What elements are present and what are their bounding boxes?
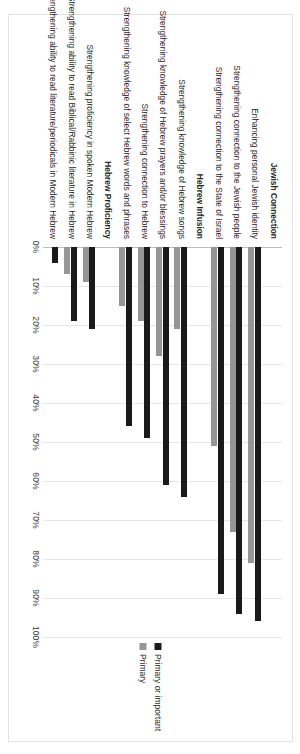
category-label: Strengthening connection to the Jewish p…	[232, 65, 241, 239]
category-axis-labels: Jewish ConnectionEnhancing personal Jewi…	[43, 29, 282, 243]
category-label: Strengthening connection to the State of…	[213, 67, 222, 239]
legend-swatch-icon	[155, 643, 162, 650]
category-label: Strengthening proficiency in spoken Mode…	[84, 44, 93, 239]
category-label: Strengthening ability to read literature…	[48, 0, 57, 239]
legend-label: Primary or important	[153, 654, 163, 731]
bar-primary-or-important	[89, 247, 95, 329]
category-label: Strengthening knowledge of select Hebrew…	[121, 7, 130, 239]
bar-primary	[175, 247, 181, 329]
plot-inner	[43, 247, 282, 637]
bar-primary-or-important	[52, 247, 58, 263]
axis-tick-label: 90%	[31, 589, 41, 606]
bar-rows	[43, 247, 282, 637]
category-label: Enhancing personal Jewish identity	[250, 108, 259, 239]
axis-tick-label: 80%	[31, 550, 41, 567]
category-group-header: Jewish Connection	[268, 163, 277, 239]
axis-tick-label: 20%	[31, 316, 41, 333]
legend-swatch-icon	[140, 643, 147, 650]
axis-tick-label: 40%	[31, 394, 41, 411]
plot-area: 0%10%20%30%40%50%60%70%80%90%100%	[43, 247, 282, 637]
axis-tick-label: 0%	[31, 241, 41, 254]
bar-primary-or-important	[144, 247, 150, 438]
category-label: Strengthening knowledge of Hebrew songs	[176, 79, 185, 239]
category-label: Strengthening ability to read Biblical/R…	[66, 0, 75, 239]
chart-frame: Jewish ConnectionEnhancing personal Jewi…	[8, 14, 293, 742]
legend-item[interactable]: Primary	[138, 643, 148, 683]
bar-primary	[156, 247, 162, 356]
chart-viewport: Jewish ConnectionEnhancing personal Jewi…	[0, 0, 300, 754]
bar-primary-or-important	[255, 247, 261, 621]
value-axis: 0%10%20%30%40%50%60%70%80%90%100%	[13, 247, 43, 637]
bar-primary-or-important	[236, 247, 242, 614]
legend-label: Primary	[138, 654, 148, 683]
category-label: Strengthening connection to Hebrew	[140, 104, 149, 240]
bar-primary	[119, 247, 125, 306]
category-group-header: Hebrew Infusion	[195, 174, 204, 239]
axis-tick-label: 30%	[31, 355, 41, 372]
axis-tick-label: 10%	[31, 277, 41, 294]
chart-stage: Jewish ConnectionEnhancing personal Jewi…	[0, 0, 300, 754]
category-group-header: Hebrew Proficiency	[103, 161, 112, 239]
axis-tick-label: 100%	[31, 626, 41, 648]
axis-tick-label: 70%	[31, 511, 41, 528]
bar-primary	[83, 247, 89, 282]
axis-tick-label: 60%	[31, 472, 41, 489]
bar-primary	[230, 247, 236, 532]
bar-primary	[138, 247, 144, 321]
bar-primary	[64, 247, 70, 274]
gridline	[43, 637, 282, 638]
bar-primary-or-important	[181, 247, 187, 497]
chart-legend: Primary or importantPrimary	[138, 643, 163, 731]
bar-primary	[248, 247, 254, 563]
bar-primary-or-important	[163, 247, 169, 485]
bar-primary-or-important	[218, 247, 224, 594]
bar-primary-or-important	[126, 247, 132, 426]
category-label: Strengthening knowledge of Hebrew prayer…	[158, 10, 167, 239]
legend-item[interactable]: Primary or important	[153, 643, 163, 731]
axis-tick-label: 50%	[31, 433, 41, 450]
bar-primary	[211, 247, 217, 446]
bar-primary-or-important	[71, 247, 77, 321]
